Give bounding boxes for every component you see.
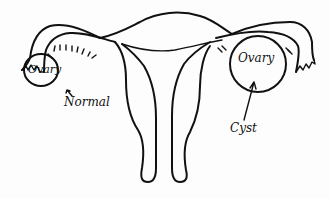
uterus-fundus-outline [100,13,232,38]
cyst-arrow [244,82,256,120]
left-ovary-label: Ovary [28,64,61,75]
right-fimbriae [296,60,315,72]
uterus-drawing [0,0,330,198]
uterus-right-wall [172,42,210,182]
uterus-left-wall [115,42,156,182]
normal-label: Normal [64,96,110,108]
uterus-diagram: Ovary Normal Ovary Cyst [0,0,330,198]
cyst-label: Cyst [230,122,257,134]
right-ovary-label: Ovary [238,52,274,64]
left-ovary-ligament-ticks [48,45,96,58]
